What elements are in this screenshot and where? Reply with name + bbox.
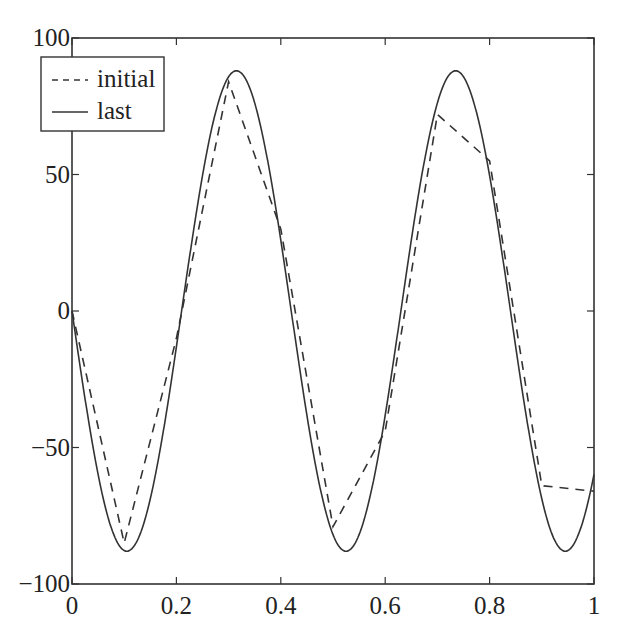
line-chart: 00.20.40.60.81 100500−50−100 initial las… [0, 0, 629, 644]
x-tick-label: 0.6 [370, 592, 401, 619]
series-initial-line [72, 82, 594, 543]
y-tick-label: 0 [58, 297, 71, 324]
x-tick-label: 0.4 [265, 592, 297, 619]
legend: initial last [41, 57, 164, 131]
y-tick-label: −50 [31, 434, 70, 461]
plot-lines [72, 71, 594, 551]
x-tick-label: 1 [588, 592, 601, 619]
series-last-line [72, 71, 594, 551]
x-tick-label: 0.8 [474, 592, 505, 619]
y-tick-label: 100 [33, 24, 71, 51]
legend-label-last: last [97, 97, 132, 124]
y-tick-label: −100 [18, 570, 70, 597]
legend-label-initial: initial [97, 65, 155, 92]
y-tick-label: 50 [45, 161, 70, 188]
x-tick-label: 0.2 [161, 592, 192, 619]
x-axis-tick-labels: 00.20.40.60.81 [66, 592, 601, 619]
